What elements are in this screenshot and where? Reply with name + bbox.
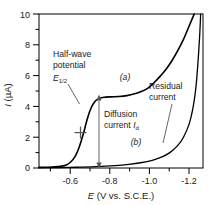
svg-text:I (µA): I (µA) (2, 83, 13, 106)
y-tick-label-4: 4 (25, 102, 30, 112)
curve-label-a: (a) (120, 72, 131, 82)
diffusion-current-word: current (104, 120, 131, 130)
y-axis-title-unit: (µA) (2, 83, 13, 104)
y-axis-minor-ticks (36, 29, 40, 152)
y-tick-label-2: 2 (25, 133, 30, 143)
y-tick-label-10: 10 (20, 10, 30, 20)
diffusion-current-line2: current Id (104, 120, 139, 131)
chart-canvas: 0 2 4 6 8 10 I (µA) -0.6 -0.8 -1.0 -1. (0, 0, 215, 205)
y-tick-label-8: 8 (25, 40, 30, 50)
x-tick-label-minus-1-2: -1.2 (181, 176, 197, 186)
x-axis-title: E (V vs. S.C.E.) (88, 190, 155, 201)
y-tick-label-6: 6 (25, 71, 30, 81)
half-wave-symbol-subscript: 1/2 (59, 78, 68, 84)
x-axis-title-unit: (V vs. S.C.E.) (94, 190, 154, 201)
diffusion-current-line1: Diffusion (104, 109, 138, 119)
curve-label-b: (b) (131, 137, 142, 147)
half-wave-potential-line1: Half-wave (53, 49, 91, 59)
x-tick-label-minus-0-6: -0.6 (62, 176, 78, 186)
residual-current-line2: current (149, 92, 176, 102)
x-tick-label-minus-1-0: -1.0 (142, 176, 158, 186)
half-wave-potential-line2: potential (53, 60, 86, 70)
x-tick-label-minus-0-8: -0.8 (102, 176, 118, 186)
y-axis-title: I (µA) (2, 83, 13, 106)
residual-current-line1: Residual (149, 81, 183, 91)
y-tick-label-0: 0 (25, 163, 30, 173)
diffusion-current-subscript: d (136, 125, 139, 131)
polarogram-figure: 0 2 4 6 8 10 I (µA) -0.6 -0.8 -1.0 -1. (0, 0, 215, 205)
